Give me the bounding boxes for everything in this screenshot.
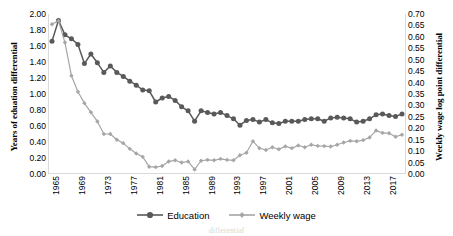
y-axis-right-tick-label: 0.20 — [408, 124, 425, 132]
data-point — [186, 108, 191, 113]
data-point — [212, 158, 216, 162]
data-point — [283, 119, 288, 124]
data-point — [179, 104, 184, 109]
data-point — [244, 118, 249, 123]
data-point — [173, 158, 177, 162]
y-axis-left-tick-label: 1.40 — [29, 58, 46, 66]
data-point — [179, 160, 183, 164]
data-point — [69, 36, 74, 41]
x-axis-tick-label: 2013 — [363, 176, 372, 195]
data-point — [121, 74, 126, 79]
data-point — [309, 143, 313, 147]
data-point — [361, 138, 365, 142]
data-point — [315, 116, 320, 121]
y-axis-right-ticks: 0.000.050.100.150.200.250.300.350.400.45… — [408, 14, 436, 174]
x-axis-tick-label: 1973 — [104, 176, 113, 195]
data-point — [341, 140, 345, 144]
data-point — [400, 112, 405, 117]
data-point — [303, 145, 307, 149]
data-point — [101, 70, 106, 75]
data-point — [134, 83, 139, 88]
plot-svg — [48, 14, 406, 174]
legend-entry-weekly-wage[interactable]: Weekly wage — [229, 210, 315, 221]
figure-caption: differential — [0, 226, 453, 236]
y-axis-left-tick-label: 0.00 — [29, 170, 46, 178]
data-point — [218, 110, 223, 115]
data-point — [290, 146, 294, 150]
x-axis-ticks: 1965196919731977198119851989199319972001… — [48, 174, 406, 206]
data-point — [276, 121, 281, 126]
legend-label-education: Education — [167, 210, 209, 221]
data-point — [393, 135, 397, 139]
y-axis-right-tick-label: 0.70 — [408, 10, 425, 18]
x-axis-tick-label: 2001 — [285, 176, 294, 195]
data-point — [95, 60, 100, 65]
data-point — [69, 74, 73, 78]
data-point — [400, 132, 404, 136]
y-axis-left-tick-label: 0.20 — [29, 154, 46, 162]
y-axis-right-tick-label: 0.35 — [408, 90, 425, 98]
data-point — [264, 148, 268, 152]
x-axis-tick-label: 2005 — [311, 176, 320, 195]
y-axis-right-tick-label: 0.60 — [408, 33, 425, 41]
data-point — [289, 119, 294, 124]
y-axis-right-tick-label: 0.30 — [408, 101, 425, 109]
data-point — [225, 158, 229, 162]
data-point — [335, 115, 340, 120]
data-point — [82, 61, 87, 66]
data-point — [199, 108, 204, 113]
y-axis-right-tick-label: 0.55 — [408, 44, 425, 52]
data-point — [283, 144, 287, 148]
x-axis-tick-label: 2009 — [337, 176, 346, 195]
y-axis-right-tick-label: 0.65 — [408, 21, 425, 29]
data-point — [341, 116, 346, 121]
data-point — [218, 157, 222, 161]
data-point — [205, 110, 210, 115]
data-point — [88, 52, 93, 57]
data-point — [329, 144, 333, 148]
chart-legend: Education Weekly wage — [0, 207, 453, 223]
data-point — [387, 131, 391, 135]
data-point — [154, 165, 158, 169]
x-axis-tick-label: 1977 — [130, 176, 139, 195]
data-point — [257, 120, 262, 125]
y-axis-left-ticks: 0.000.200.400.600.801.001.201.401.601.80… — [18, 14, 46, 174]
y-axis-right-tick-label: 0.00 — [408, 170, 425, 178]
data-point — [296, 119, 301, 124]
data-point — [50, 39, 55, 44]
data-point — [263, 117, 268, 122]
data-point — [387, 113, 392, 118]
legend-swatch-weekly-wage — [229, 210, 255, 220]
data-point — [192, 119, 197, 124]
plot-area — [48, 14, 406, 174]
data-point — [102, 132, 106, 136]
data-point — [316, 144, 320, 148]
data-point — [367, 116, 372, 121]
data-point — [153, 100, 158, 105]
series-line-weekly-wage — [52, 21, 402, 170]
data-point — [348, 116, 353, 121]
data-point — [354, 139, 358, 143]
data-point — [270, 120, 275, 125]
data-point — [380, 131, 384, 135]
data-point — [166, 94, 171, 99]
y-axis-right-tick-label: 0.40 — [408, 79, 425, 87]
data-point — [322, 144, 326, 148]
data-point — [322, 119, 327, 124]
x-axis-tick-label: 1965 — [52, 176, 61, 195]
data-point — [354, 120, 359, 125]
legend-entry-education[interactable]: Education — [137, 210, 209, 221]
data-point — [173, 98, 178, 103]
y-axis-right-tick-label: 0.45 — [408, 67, 425, 75]
data-point — [127, 79, 132, 84]
x-axis-tick-label: 1985 — [182, 176, 191, 195]
y-axis-left-tick-label: 1.80 — [29, 26, 46, 34]
data-point — [160, 96, 165, 101]
x-axis-tick-label: 1989 — [208, 176, 217, 195]
chart-container: Years of eduation differential Weekly wa… — [0, 0, 453, 236]
data-point — [50, 22, 54, 26]
data-point — [108, 64, 113, 69]
data-point — [114, 70, 119, 75]
y-axis-right-tick-label: 0.10 — [408, 147, 425, 155]
x-axis-tick-label: 1993 — [233, 176, 242, 195]
